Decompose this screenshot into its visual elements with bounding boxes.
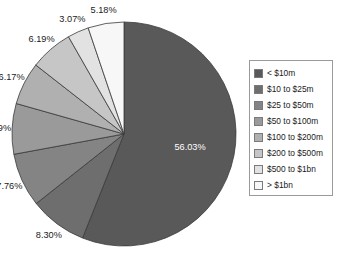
legend-item-label: $10 to $25m — [267, 85, 314, 93]
legend-item[interactable]: $100 to $200m — [254, 129, 332, 145]
legend-item-label: > $1bn — [267, 181, 293, 189]
legend-swatch-icon — [254, 101, 263, 110]
legend-swatch-icon — [254, 149, 263, 158]
legend-swatch-icon — [254, 69, 263, 78]
legend-item[interactable]: > $1bn — [254, 177, 332, 193]
pie-slice-label: 56.03% — [174, 142, 205, 152]
legend-item[interactable]: $10 to $25m — [254, 81, 332, 97]
legend-item-label: $25 to $50m — [267, 101, 314, 109]
pie-slice-label: 7.76% — [0, 181, 22, 191]
legend-swatch-icon — [254, 181, 263, 190]
legend-item-label: $200 to $500m — [267, 149, 323, 157]
legend-swatch-icon — [254, 133, 263, 142]
legend-item[interactable]: $200 to $500m — [254, 145, 332, 161]
pie-chart-figure: 56.03%8.30%7.76%7.29%6.17%6.19%3.07%5.18… — [0, 0, 343, 262]
legend-item-label: $50 to $100m — [267, 117, 318, 125]
pie-slice-label: 6.17% — [0, 72, 25, 82]
legend-swatch-icon — [254, 85, 263, 94]
pie-slice-label: 5.18% — [91, 5, 117, 15]
legend-swatch-icon — [254, 117, 263, 126]
pie-slice-label: 7.29% — [0, 123, 11, 133]
legend-item-label: $500 to $1bn — [267, 165, 316, 173]
chart-legend: < $10m$10 to $25m$25 to $50m$50 to $100m… — [249, 60, 333, 196]
pie-slice-label: 8.30% — [36, 230, 62, 240]
legend-item[interactable]: $25 to $50m — [254, 97, 332, 113]
pie-slice-label: 6.19% — [29, 34, 55, 44]
pie-slice-label: 3.07% — [59, 14, 85, 24]
legend-item[interactable]: < $10m — [254, 65, 332, 81]
legend-item-label: $100 to $200m — [267, 133, 323, 141]
pie-slice-group — [12, 22, 236, 246]
legend-item[interactable]: $500 to $1bn — [254, 161, 332, 177]
legend-item-label: < $10m — [267, 69, 295, 77]
legend-swatch-icon — [254, 165, 263, 174]
legend-item[interactable]: $50 to $100m — [254, 113, 332, 129]
